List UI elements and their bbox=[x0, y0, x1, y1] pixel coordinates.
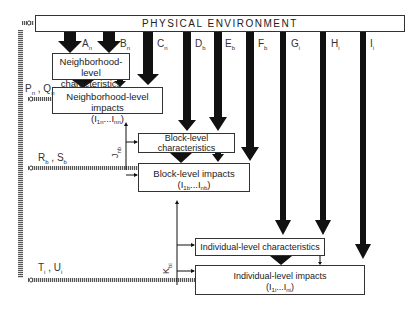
feedback-label-rs: Rb , Sb bbox=[38, 152, 67, 165]
range-close: ) bbox=[291, 282, 294, 292]
individual-impacts-box: Individual-level impacts (I1i...Ini) bbox=[195, 265, 365, 295]
range-close: ) bbox=[207, 179, 210, 190]
range-sub-end: nn bbox=[114, 119, 121, 125]
arrow-label-d: Db bbox=[195, 38, 206, 51]
feedback-label-pq: Pn , Qn bbox=[25, 83, 54, 96]
feedback-bar bbox=[18, 30, 23, 278]
block-characteristics-line2: characteristics bbox=[139, 144, 234, 154]
feedback-label-k: Kbi bbox=[161, 263, 173, 274]
block-impacts-box: Block-level impacts (I1b...Inb) bbox=[138, 163, 250, 192]
neighborhood-impacts-range: (I1n...Inn) bbox=[53, 113, 162, 128]
range-mid: ...I bbox=[276, 282, 286, 292]
arrow-label-a: An bbox=[82, 38, 92, 51]
individual-impacts-line1: Individual-level impacts bbox=[196, 271, 364, 282]
individual-characteristics-line1: Individual-level characteristics bbox=[196, 239, 324, 255]
arrow-label-f: Fb bbox=[258, 38, 267, 51]
range-mid: ...I bbox=[104, 113, 115, 124]
range-mid: ...I bbox=[190, 179, 201, 190]
block-impacts-range: (I1b...Inb) bbox=[139, 179, 249, 194]
block-characteristics-box: Block-level characteristics bbox=[138, 133, 235, 153]
range-sub-start: 1n bbox=[97, 119, 104, 125]
feedback-label-tu: Ti , Ui bbox=[38, 262, 62, 275]
arrow-label-c: Cn bbox=[157, 38, 168, 51]
range-close: ) bbox=[121, 113, 124, 124]
individual-impacts-range: (I1i...Ini) bbox=[196, 282, 364, 296]
physical-environment-box: PHYSICAL ENVIRONMENT bbox=[35, 15, 405, 32]
block-impacts-line1: Block-level impacts bbox=[139, 168, 249, 179]
feedback-label-j: Jnb bbox=[110, 147, 122, 158]
neighborhood-characteristics-box: Neighborhood-level characteristics bbox=[52, 53, 130, 80]
arrow-label-e: Eb bbox=[225, 38, 235, 51]
individual-characteristics-box: Individual-level characteristics bbox=[195, 238, 325, 256]
neighborhood-impacts-line1: Neighborhood-level impacts bbox=[53, 91, 162, 113]
arrow-label-g: Gi bbox=[291, 38, 300, 51]
neighborhood-impacts-box: Neighborhood-level impacts (I1n...Inn) bbox=[52, 87, 163, 114]
neighborhood-characteristics-line1: Neighborhood-level bbox=[53, 56, 129, 78]
arrow-label-h: Hi bbox=[331, 38, 340, 51]
arrow-label-i: Ii bbox=[370, 38, 374, 51]
arrow-label-b: Bn bbox=[120, 38, 130, 51]
